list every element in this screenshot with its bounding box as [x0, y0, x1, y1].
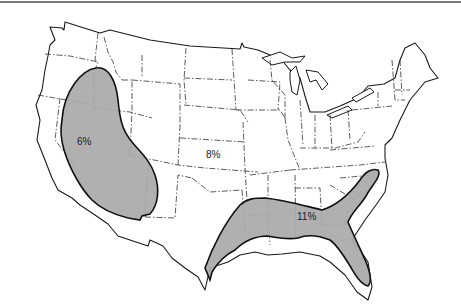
label-gulf-southeast: 11% — [297, 211, 316, 222]
label-interior: 8% — [206, 149, 220, 160]
lake-huron — [306, 70, 328, 90]
us-map — [0, 0, 461, 305]
label-southwest: 6% — [77, 136, 91, 147]
